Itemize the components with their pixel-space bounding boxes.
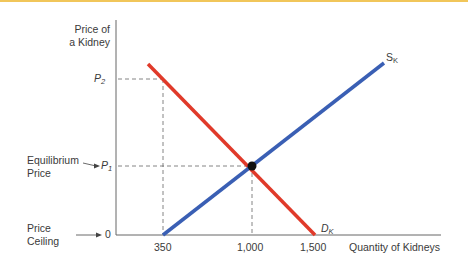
x-tick-1500: 1,500 [300, 241, 326, 254]
x-axis-title: Quantity of Kidneys [349, 241, 440, 254]
eq-line2: Price [27, 167, 79, 180]
y-title-line2: a Kidney [52, 36, 110, 49]
ceil-line2: Ceiling [27, 235, 59, 248]
eq-arrowhead [94, 164, 100, 169]
demand-label: DK [321, 222, 334, 238]
equilibrium-price-label: Equilibrium Price [27, 154, 79, 180]
x-tick-1000: 1,000 [237, 241, 263, 254]
x-tick-350: 350 [154, 241, 172, 254]
price-ceiling-label: Price Ceiling [27, 222, 59, 248]
equilibrium-point [248, 162, 257, 171]
supply-curve [163, 63, 384, 235]
y-axis-title: Price of a Kidney [52, 23, 110, 49]
supply-label: SK [386, 51, 398, 67]
y-title-line1: Price of [52, 23, 110, 36]
zero-label: 0 [105, 228, 111, 241]
eq-line1: Equilibrium [27, 154, 79, 167]
p1-label: P1 [101, 159, 112, 175]
ceil-line1: Price [27, 222, 59, 235]
ceiling-arrowhead [96, 233, 102, 238]
p2-label: P2 [94, 72, 105, 88]
demand-curve [148, 64, 315, 235]
